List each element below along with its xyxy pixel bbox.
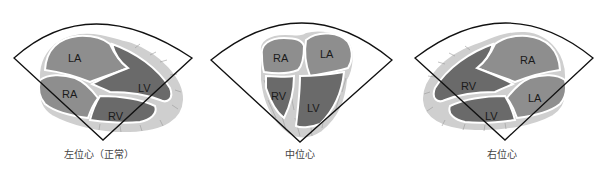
chamber-lv [296,72,344,127]
label-rv: RV [108,110,124,122]
label-lv: LV [138,82,151,94]
panel-mesocardia: RA LA RV LV 中位心 [200,0,405,170]
label-rv: RV [271,90,287,102]
label-ra: RA [62,88,78,100]
label-lv: LV [485,110,498,122]
panel-dextrocardia: RA RV LA LV 右位心 [405,0,605,170]
caption-levocardia: 左位心（正常） [64,146,134,161]
panel-levocardia: LA RA LV RV 左位心（正常） [0,0,200,170]
heart-diagram-levocardia: LA RA LV RV [0,0,200,170]
label-la: LA [528,92,542,104]
label-la: LA [68,52,82,64]
heart-diagram-dextrocardia: RA RV LA LV [405,0,605,170]
caption-mesocardia: 中位心 [285,146,315,161]
label-ra: RA [520,54,536,66]
label-ra: RA [273,52,289,64]
caption-dextrocardia: 右位心 [487,146,517,161]
label-la: LA [320,48,334,60]
label-rv: RV [461,80,477,92]
heart-diagram-mesocardia: RA LA RV LV [200,0,405,170]
label-lv: LV [307,102,320,114]
